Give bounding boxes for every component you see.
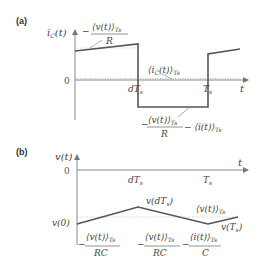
panel-a-upper-expression: − ⟨v(t)⟩Ts R	[82, 22, 128, 48]
svg-text:⟨v(t)⟩Ts: ⟨v(t)⟩Ts	[148, 115, 177, 126]
svg-text:C: C	[202, 248, 209, 258]
panel-b-zero-label: 0	[64, 166, 70, 176]
panel-b-tick-Ts: Ts	[203, 175, 212, 186]
panel-a-label: (a)	[16, 16, 27, 26]
svg-text:⟨i(t)⟩Ts: ⟨i(t)⟩Ts	[190, 232, 217, 243]
panel-a-tick-dTs: dTs	[128, 84, 143, 95]
panel-a-x-label: t	[240, 83, 245, 94]
svg-text:RC: RC	[152, 248, 167, 258]
panel-b-label: (b)	[16, 147, 28, 157]
panel-b-x-label: t	[238, 157, 243, 168]
svg-text:−: −	[182, 239, 190, 249]
svg-text:⟨iC(t)⟩Ts: ⟨iC(t)⟩Ts	[148, 65, 180, 76]
svg-text:−: −	[78, 239, 86, 249]
svg-text:−: −	[82, 26, 90, 36]
svg-text:RC: RC	[93, 248, 108, 258]
panel-b-v0-label: v(0)	[52, 218, 70, 228]
panel-b-y-label: v(t)	[55, 151, 73, 162]
panel-a-tick-Ts: Ts	[203, 84, 212, 95]
panel-a-average-label: ⟨iC(t)⟩Ts	[148, 65, 180, 79]
svg-text:⟨v(t)⟩Ts: ⟨v(t)⟩Ts	[145, 232, 174, 243]
panel-b-tick-dTs: dTs	[128, 175, 143, 186]
panel-a-zero-label: 0	[64, 76, 70, 86]
panel-b-vdTs-label: v(dTs)	[146, 196, 173, 207]
panel-b-slope1-expression: − ⟨v(t)⟩Ts RC	[78, 232, 120, 258]
svg-text:⟨v(t)⟩Ts: ⟨v(t)⟩Ts	[86, 232, 115, 243]
panel-a-lower-expression: − ⟨v(t)⟩Ts R − ⟨i(t)⟩Ts	[141, 107, 222, 139]
panel-b-slope2-expression: − ⟨v(t)⟩Ts RC − ⟨i(t)⟩Ts C	[137, 232, 221, 258]
svg-text:− ⟨i(t)⟩Ts: − ⟨i(t)⟩Ts	[184, 122, 222, 133]
svg-text:⟨v(t)⟩Ts: ⟨v(t)⟩Ts	[92, 22, 121, 33]
panel-b-vTs-label: v(Ts)	[221, 222, 243, 233]
converter-waveform-diagram: (a) iC(t) t 0 dTs Ts − ⟨v(t)⟩Ts R ⟨iC(t)…	[0, 0, 262, 263]
svg-text:R: R	[105, 36, 113, 46]
panel-a-y-label: iC(t)	[47, 27, 67, 39]
svg-text:R: R	[160, 129, 168, 139]
svg-text:−: −	[137, 239, 145, 249]
panel-b-average-label: ⟨v(t)⟩Ts	[196, 204, 225, 215]
